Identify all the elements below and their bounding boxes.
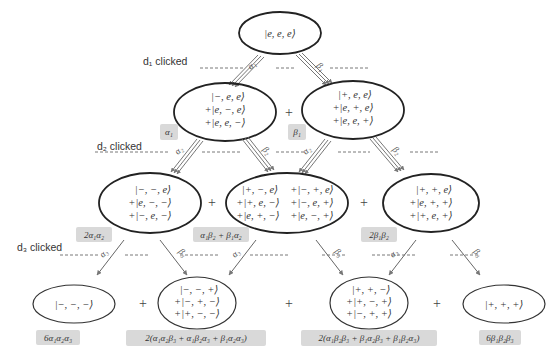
- state-line: +|e, −, +⟩: [290, 210, 333, 221]
- state-line: +|e, −, −⟩: [128, 197, 171, 208]
- level2-right-node: |+, +, e⟩ +|e, +, +⟩ +|+, e, +⟩: [383, 174, 479, 232]
- coef-6a1a2a3: 6α₁α₂α₃: [36, 330, 80, 345]
- level-dashes: [60, 68, 480, 255]
- state-line: |−, −, +⟩: [180, 284, 219, 295]
- level3-node-1: |−, −, −⟩: [33, 285, 115, 323]
- state-line: +|e, −, e⟩: [205, 104, 246, 115]
- level2-left-node: |−, −, e⟩ +|e, −, −⟩ +|−, e, −⟩: [99, 173, 201, 233]
- state-line: +|−, e, +⟩: [290, 197, 333, 208]
- plus-sign: +: [285, 105, 293, 120]
- svg-text:α₁: α₁: [165, 127, 173, 137]
- level3-node-2: |−, −, +⟩ +|−, +, −⟩ +|+, −, −⟩: [158, 277, 236, 329]
- state-line: |+, +, −⟩: [352, 284, 391, 295]
- level1-right-node: |+, e, e⟩ +|e, +, e⟩ +|e, e, +⟩: [302, 81, 404, 139]
- state-line: +|+, e, −⟩: [236, 197, 279, 208]
- root-node: |e, e, e⟩: [239, 12, 321, 54]
- level2-arrows: [97, 240, 480, 275]
- state-line: |+, −, e⟩: [242, 184, 278, 195]
- state-line: +|−, +, +⟩: [346, 308, 392, 319]
- coef-level3-2: 2(α₁α₂β₃ + α₁β₂α₃ + β₁α₂α₃): [126, 330, 266, 346]
- arrow-label-alpha2: α₂: [172, 144, 185, 157]
- coef-alpha1: α₁: [160, 124, 178, 140]
- coef-6b1b2b3: 6β₁β₂β₃: [479, 330, 521, 345]
- level3-node-4: |+, +, +⟩: [463, 285, 545, 323]
- d1-clicked-label: d₁ clicked: [143, 55, 188, 67]
- state-line: |−, e, e⟩: [211, 91, 245, 102]
- probability-tree-diagram: d₁ clicked d₂ clicked d₃ clicked |e, e, …: [0, 0, 560, 355]
- state-line: +|−, +, −⟩: [174, 296, 220, 307]
- svg-text:2(α₁β₂β₃ + β₁α₂β₃ + β₁β₂α₃): 2(α₁β₂β₃ + β₁α₂β₃ + β₁β₂α₃): [319, 333, 420, 343]
- coef-beta1: β₁: [288, 124, 306, 140]
- state-line: +|e, +, −⟩: [236, 210, 279, 221]
- state-line: +|+, e, +⟩: [409, 210, 452, 221]
- level1-arrows: [171, 137, 404, 174]
- coef-level3-3: 2(α₁β₂β₃ + β₁α₂β₃ + β₁β₂α₃): [301, 330, 437, 346]
- state-line: |−, −, e⟩: [135, 184, 171, 195]
- level3-node-3: |+, +, −⟩ +|+, −, +⟩ +|−, +, +⟩: [330, 277, 408, 329]
- plus-sign: +: [285, 296, 293, 311]
- plus-sign: +: [208, 195, 216, 210]
- state-line: +|e, +, +⟩: [409, 197, 452, 208]
- arrow-label-beta3: β₃: [471, 246, 484, 259]
- state-line: +|e, e, −⟩: [205, 117, 246, 128]
- svg-text:α₁β₂ + β₁α₂: α₁β₂ + β₁α₂: [200, 230, 242, 240]
- state-line: +|+, −, +⟩: [346, 296, 392, 307]
- state-line: |+, +, +⟩: [485, 299, 524, 310]
- arrow-label-beta3: β₃: [332, 246, 345, 259]
- level1-left-node: |−, e, e⟩ +|e, −, e⟩ +|e, e, −⟩: [174, 83, 276, 141]
- state-line: |+, e, e⟩: [338, 89, 372, 100]
- svg-text:6β₁β₂β₃: 6β₁β₂β₃: [486, 333, 513, 343]
- d2-clicked-label: d₂ clicked: [97, 140, 142, 152]
- svg-text:2α₁α₂: 2α₁α₂: [84, 230, 104, 240]
- state-line: |+, +, e⟩: [416, 184, 452, 195]
- d3-clicked-label: d₃ clicked: [17, 241, 62, 253]
- arrow-label-alpha3: α₃: [97, 247, 110, 260]
- state-line: +|e, +, e⟩: [333, 102, 374, 113]
- state-line: +|−, e, −⟩: [128, 210, 171, 221]
- plus-sign: +: [360, 195, 368, 210]
- plus-sign: +: [433, 296, 441, 311]
- state-line: +|−, +, e⟩: [290, 184, 333, 195]
- svg-text:β₁: β₁: [292, 127, 301, 137]
- arrow-label-beta2: β₂: [390, 144, 403, 157]
- state-line: +|e, e, +⟩: [333, 115, 374, 126]
- arrow-label-alpha3: α₃: [229, 247, 242, 260]
- arrow-label-alpha3: α₃: [387, 247, 400, 260]
- coef-2a1a2: 2α₁α₂: [76, 227, 112, 242]
- svg-text:2β₁β₂: 2β₁β₂: [369, 230, 389, 240]
- state-line: +|+, −, −⟩: [174, 308, 220, 319]
- root-arrows: [229, 53, 332, 87]
- svg-text:2(α₁α₂β₃ + α₁β₂α₃ + β₁α₂α₃): 2(α₁α₂β₃ + α₁β₂α₃ + β₁α₂α₃): [145, 333, 247, 343]
- coef-a1b2-b1a2: α₁β₂ + β₁α₂: [193, 227, 249, 242]
- plus-sign: +: [139, 296, 147, 311]
- arrow-label-beta3: β₃: [176, 246, 189, 259]
- state-line: |−, −, −⟩: [55, 299, 94, 310]
- level2-middle-node: |+, −, e⟩ +|+, e, −⟩ +|e, +, −⟩ +|−, +, …: [226, 173, 348, 233]
- coef-2b1b2: 2β₁β₂: [361, 227, 397, 242]
- arrow-label-alpha2: α₂: [300, 144, 313, 157]
- svg-text:6α₁α₂α₃: 6α₁α₂α₃: [44, 333, 72, 343]
- root-state: |e, e, e⟩: [264, 28, 295, 39]
